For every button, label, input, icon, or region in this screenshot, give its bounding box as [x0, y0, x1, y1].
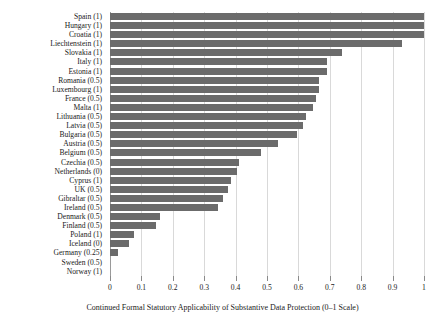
- x-axis-tick: [236, 276, 237, 281]
- bar: [110, 68, 327, 75]
- bar-row: [110, 31, 424, 38]
- x-axis-tick: [298, 276, 299, 281]
- bar-row: [110, 113, 424, 120]
- bar-row: [110, 222, 424, 229]
- bar-chart: Spain (1)Hungary (1)Croatia (1)Liechtens…: [0, 0, 445, 325]
- bar: [110, 49, 342, 56]
- bar: [110, 40, 402, 47]
- bar-row: [110, 240, 424, 247]
- bar-row: [110, 122, 424, 129]
- y-axis-label: Romania (0.5): [0, 77, 106, 84]
- y-axis-label: Czechia (0.5): [0, 159, 106, 166]
- bar-row: [110, 213, 424, 220]
- bar-row: [110, 131, 424, 138]
- bar-row: [110, 268, 424, 275]
- bar-row: [110, 177, 424, 184]
- x-axis-tick-label: 0.8: [356, 283, 366, 292]
- x-axis-tick-label: 0.3: [199, 283, 209, 292]
- bar-row: [110, 58, 424, 65]
- y-axis-label: Liechtenstein (1): [0, 40, 106, 47]
- bar: [110, 22, 424, 29]
- x-axis-tick-label: 0.7: [325, 283, 335, 292]
- bar: [110, 31, 424, 38]
- y-axis-label: Germany (0.25): [0, 249, 106, 256]
- x-axis-tick-label: 0.1: [137, 283, 147, 292]
- bar-row: [110, 140, 424, 147]
- bar: [110, 249, 118, 256]
- x-axis-tick-label: 0.9: [388, 283, 398, 292]
- y-axis-label: Gibraltar (0.5): [0, 195, 106, 202]
- bar: [110, 213, 160, 220]
- bar-rows: [110, 12, 424, 276]
- y-axis-label: Estonia (1): [0, 68, 106, 75]
- x-axis: 00.10.20.30.40.50.60.70.80.91: [110, 276, 424, 302]
- x-axis-tick: [424, 276, 425, 281]
- y-axis-label: Norway (1): [0, 268, 106, 275]
- bar-row: [110, 68, 424, 75]
- bar: [110, 13, 424, 20]
- bar: [110, 122, 303, 129]
- bar-row: [110, 159, 424, 166]
- y-axis-label: Cyprus (1): [0, 177, 106, 184]
- y-axis-label: Iceland (0): [0, 240, 106, 247]
- x-axis-tick: [330, 276, 331, 281]
- x-axis-tick: [267, 276, 268, 281]
- bar-row: [110, 195, 424, 202]
- bar: [110, 168, 237, 175]
- y-axis-label: Ireland (0.5): [0, 204, 106, 211]
- bar: [110, 95, 316, 102]
- x-axis-tick: [361, 276, 362, 281]
- bar-row: [110, 13, 424, 20]
- x-axis-tick-label: 1: [422, 283, 426, 292]
- x-axis-tick: [393, 276, 394, 281]
- bar: [110, 222, 156, 229]
- y-axis-labels: Spain (1)Hungary (1)Croatia (1)Liechtens…: [0, 12, 106, 276]
- bar: [110, 86, 319, 93]
- x-axis-tick-label: 0.6: [294, 283, 304, 292]
- y-axis-label: Croatia (1): [0, 31, 106, 38]
- y-axis-label: Netherlands (0): [0, 168, 106, 175]
- bar: [110, 149, 261, 156]
- plot-area: [110, 12, 424, 276]
- y-axis-label: Poland (1): [0, 231, 106, 238]
- x-axis-title: Continued Formal Statutory Applicability…: [0, 303, 445, 312]
- y-axis-label: Sweden (0.5): [0, 259, 106, 266]
- bar-row: [110, 95, 424, 102]
- bar-row: [110, 49, 424, 56]
- bar: [110, 140, 278, 147]
- y-axis-label: Denmark (0.5): [0, 213, 106, 220]
- bar-row: [110, 249, 424, 256]
- bar-row: [110, 168, 424, 175]
- x-axis-tick-label: 0.5: [262, 283, 272, 292]
- x-axis-tick: [110, 276, 111, 281]
- bar: [110, 159, 239, 166]
- y-axis-label: Malta (1): [0, 104, 106, 111]
- gridline-1: [424, 12, 425, 276]
- y-axis-label: Luxembourg (1): [0, 86, 106, 93]
- bar-row: [110, 104, 424, 111]
- bar: [110, 240, 129, 247]
- bar: [110, 195, 223, 202]
- x-axis-tick-label: 0: [108, 283, 112, 292]
- x-axis-tick: [141, 276, 142, 281]
- y-axis-label: Lithuania (0.5): [0, 113, 106, 120]
- bar-row: [110, 149, 424, 156]
- x-axis-tick: [204, 276, 205, 281]
- bar-row: [110, 86, 424, 93]
- y-axis-label: Belgium (0.5): [0, 149, 106, 156]
- bar: [110, 177, 231, 184]
- x-axis-tick: [173, 276, 174, 281]
- bar: [110, 104, 313, 111]
- bar-row: [110, 204, 424, 211]
- y-axis-label: France (0.5): [0, 95, 106, 102]
- y-axis-label: Bulgaria (0.5): [0, 131, 106, 138]
- bar: [110, 131, 297, 138]
- y-axis-label: Latvia (0.5): [0, 122, 106, 129]
- y-axis-label: Hungary (1): [0, 22, 106, 29]
- bar-row: [110, 231, 424, 238]
- y-axis-label: Italy (1): [0, 58, 106, 65]
- y-axis-label: Austria (0.5): [0, 140, 106, 147]
- y-axis-label: Spain (1): [0, 13, 106, 20]
- bar: [110, 231, 134, 238]
- bar: [110, 77, 319, 84]
